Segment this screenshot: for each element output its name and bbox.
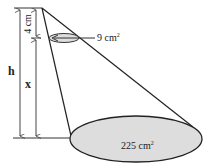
label-h: h: [8, 64, 15, 78]
label-base-area: 225 cm2: [121, 140, 154, 151]
cone-diagram: 4 cm h x 9 cm2 225 cm2: [0, 0, 206, 168]
label-small-area: 9 cm2: [97, 32, 120, 43]
label-x: x: [25, 77, 31, 91]
label-4cm: 4 cm: [22, 14, 33, 34]
base-cross-section: [70, 116, 202, 162]
